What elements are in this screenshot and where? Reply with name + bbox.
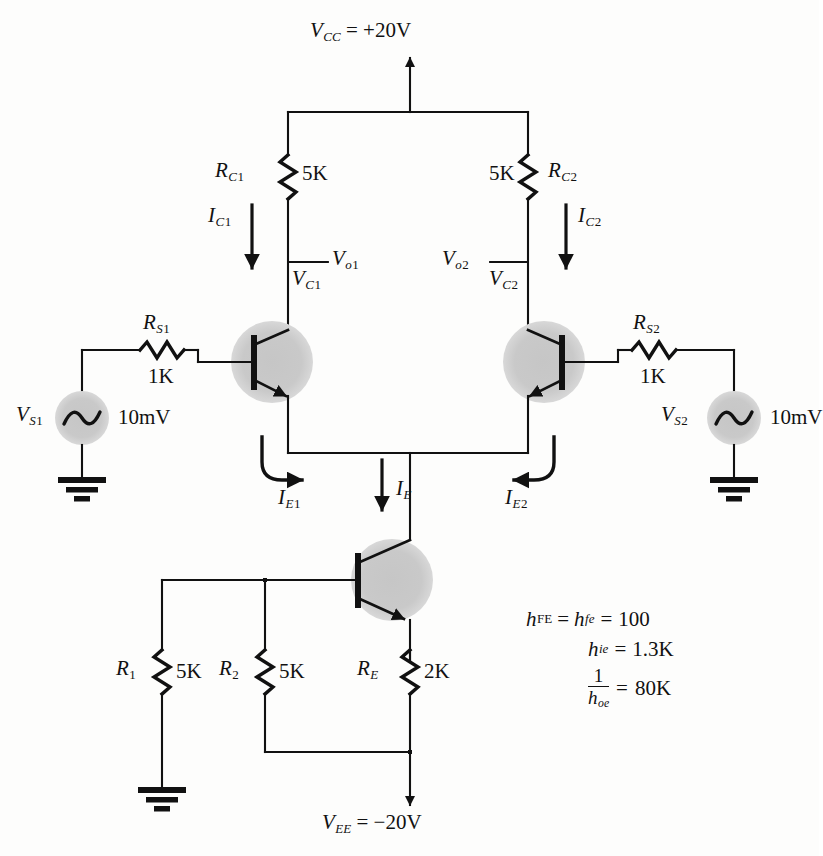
right-collector-branch (490, 112, 566, 330)
ie2-label: IE2 (505, 487, 527, 510)
vs2-value: 10mV (770, 407, 823, 428)
vcc-value: = +20V (346, 18, 411, 42)
vcc-label: VCC = +20V (310, 20, 411, 43)
re-value: 2K (424, 661, 450, 682)
one-over-hoe-fraction: 1 hoe (588, 666, 609, 711)
r2-value: 5K (279, 661, 305, 682)
vcc-symbol: V (310, 18, 323, 42)
rs2-value: 1K (640, 366, 666, 387)
r1-branch (154, 580, 170, 788)
transistor-q1 (198, 321, 313, 453)
param-row-hie: hie = 1.3K (526, 634, 674, 664)
transistor-q3 (162, 539, 433, 660)
vs1-value: 10mV (118, 407, 171, 428)
rs1-value: 1K (148, 366, 174, 387)
ground-vs1 (58, 477, 106, 502)
vo2-label: Vo2 (442, 248, 469, 271)
left-collector-branch (252, 112, 328, 330)
param-row-hfe: hFE = hfe = 100 (526, 604, 674, 634)
vs1-label: VS1 (16, 404, 43, 427)
ie1-label: IE1 (278, 487, 300, 510)
ground-r1 (138, 787, 186, 812)
rs1-label: RS1 (143, 312, 170, 335)
rc2-value: 5K (489, 163, 515, 184)
ie2-arrow (514, 437, 554, 480)
vs2-label: VS2 (661, 404, 688, 427)
transistor-parameters: hFE = hfe = 100 hie = 1.3K 1 hoe = 80K (526, 604, 674, 712)
vcc-subscript: CC (323, 29, 341, 44)
param-row-hoe: 1 hoe = 80K (526, 664, 674, 712)
vee-label: VEE = −20V (322, 812, 422, 835)
re-label: RE (357, 658, 378, 681)
r2-label: R2 (219, 658, 239, 681)
ie1-arrow (262, 437, 302, 480)
rc1-label: RC1 (215, 160, 244, 183)
rc1-value: 5K (302, 163, 328, 184)
r1-label: R1 (116, 658, 136, 681)
rs2-label: RS2 (633, 312, 660, 335)
vo1-label: Vo1 (332, 248, 359, 271)
transistor-q2 (503, 321, 618, 453)
ic1-label: IC1 (208, 205, 231, 228)
re-branch (402, 650, 418, 805)
rc2-label: RC2 (548, 160, 577, 183)
vc1-label: VC1 (292, 268, 321, 291)
ie-label: IE (396, 478, 411, 501)
ground-vs2 (710, 477, 758, 502)
vcc-rail (288, 58, 528, 112)
r1-value: 5K (176, 661, 202, 682)
vc2-label: VC2 (489, 268, 518, 291)
right-source-network (618, 342, 761, 478)
ic2-label: IC2 (578, 205, 601, 228)
